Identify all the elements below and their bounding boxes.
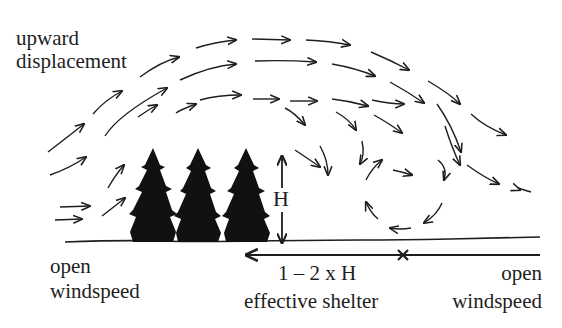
height-label: H [273,188,289,210]
tree-3 [222,148,270,242]
tree-2 [174,148,221,242]
right-windspeed-label: windspeed [452,290,542,312]
windbreak-diagram: upward displacement open windspeed H 1 –… [0,0,562,328]
tree-1 [129,148,177,242]
trees [129,148,270,242]
shelter-marker [246,250,540,260]
left-windspeed-label: windspeed [50,280,140,302]
right-open-label: open [501,262,542,284]
upward-label-line2: displacement [16,50,127,72]
left-open-label: open [50,255,91,277]
upward-label-line1: upward [16,27,79,49]
shelter-distance-label: 1 – 2 x H [278,262,356,284]
effective-shelter-label: effective shelter [244,290,378,312]
